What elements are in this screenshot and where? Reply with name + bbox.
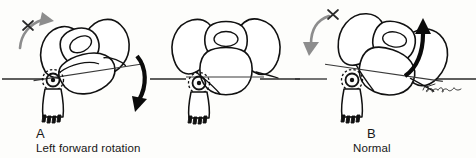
pelvis-group: [321, 4, 455, 109]
x-mark-c: [328, 10, 338, 19]
black-arrow-head-a: [132, 96, 147, 112]
panel-b-illustration: [150, 0, 300, 126]
artist-signature: [423, 84, 461, 92]
panel-a-caption: Left forward rotation: [36, 142, 140, 154]
black-arrow-head-c: [415, 18, 431, 34]
foot-outline-b: [189, 92, 210, 118]
gray-arrow-head-a: [39, 12, 54, 26]
restricted-motion-arrow-c: [303, 16, 329, 56]
foot-c: [341, 89, 362, 123]
panel-b: B Normal: [150, 0, 300, 158]
gray-arrow-head-c: [303, 42, 319, 56]
foot-outline-c: [342, 89, 363, 117]
foot-b: [188, 92, 209, 124]
panel-c-illustration: [295, 0, 476, 126]
panel-a-label: A: [36, 126, 45, 141]
gray-arc-c: [311, 16, 329, 44]
gray-arc-a: [20, 20, 42, 48]
foot-outline-a: [43, 89, 64, 117]
hip-joint-marker-b: [189, 73, 210, 94]
panel-a-illustration: [0, 0, 160, 126]
hip-joint-marker-c: [342, 70, 363, 91]
foot-a: [42, 89, 63, 123]
pelvic-rotation-figure: A Left forward rotation: [0, 0, 476, 158]
panel-a: A Left forward rotation: [0, 0, 160, 158]
black-arc-a: [137, 56, 145, 100]
panel-c: C Left backward rotation: [295, 0, 476, 158]
